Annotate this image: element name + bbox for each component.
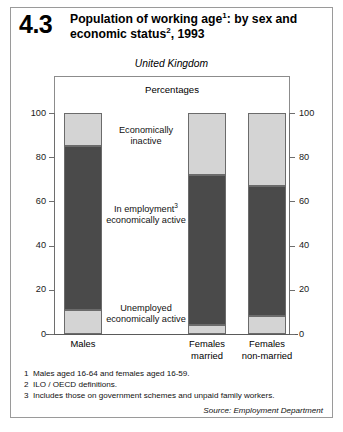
series-annotation: Economicallyinactive (104, 125, 188, 147)
series-annotation-line1: In employment3 (104, 204, 188, 215)
y-tick-label-left: 40 (36, 241, 46, 250)
bar-segment (188, 175, 226, 325)
series-annotation-line2: inactive (104, 136, 188, 147)
figure-header: 4.3 Population of working age1: by sex a… (12, 10, 330, 54)
y-tick-right (290, 113, 295, 114)
series-annotation-line1: Economically (104, 125, 188, 136)
figure-title-part1b: : by sex (227, 12, 272, 26)
y-tick-right (290, 290, 295, 291)
bar-segment (248, 113, 286, 186)
bar-segment (64, 310, 102, 334)
series-annotation-footnote-ref: 3 (174, 202, 178, 209)
y-tick-label-left: 100 (31, 109, 46, 118)
stacked-bar (188, 113, 226, 334)
footnote-text: ILO / OECD definitions. (33, 380, 117, 389)
category-label-line1: Females (225, 338, 309, 350)
y-tick-label-right: 80 (299, 153, 309, 162)
figure-title-part1: Population of working age (70, 12, 222, 26)
footnote-text: Includes those on government schemes and… (33, 391, 275, 400)
axis-baseline (46, 334, 298, 335)
y-tick-label-right: 20 (299, 285, 309, 294)
y-tick-label-left: 60 (36, 197, 46, 206)
units-label: Percentages (54, 84, 290, 95)
stacked-bar (64, 113, 102, 334)
category-label: Femalesnon-married (225, 338, 309, 361)
category-label: Males (41, 338, 125, 350)
y-tick-left (49, 290, 54, 291)
series-annotation-line2: economically active (104, 215, 188, 226)
bar-segment (64, 113, 102, 146)
y-tick-right (290, 334, 295, 335)
footnote-number: 3 (24, 390, 33, 401)
y-tick-label-left: 20 (36, 285, 46, 294)
bar-segment (64, 146, 102, 310)
figure-title-part2b: , 1993 (171, 27, 205, 41)
footnote: 1Males aged 16-64 and females aged 16-59… (24, 368, 324, 379)
series-annotation-line2: economically active (100, 314, 192, 325)
bar-segment (188, 113, 226, 175)
footnote-number: 2 (24, 379, 33, 390)
figure-number: 4.3 (19, 11, 52, 37)
category-label-line2: non-married (225, 350, 309, 362)
region-label: United Kingdom (0, 58, 343, 69)
footnote-text: Males aged 16-64 and females aged 16-59. (33, 369, 190, 378)
y-tick-label-right: 100 (299, 109, 314, 118)
y-tick-left (49, 246, 54, 247)
series-annotation: In employment3economically active (104, 204, 188, 226)
y-tick-left (49, 201, 54, 202)
y-tick-right (290, 157, 295, 158)
bar-segment (188, 325, 226, 334)
footnote: 2ILO / OECD definitions. (24, 379, 324, 390)
y-tick-label-right: 60 (299, 197, 309, 206)
y-tick-right (290, 246, 295, 247)
y-axis-left (54, 113, 55, 334)
series-annotation-line1: Unemployed (100, 303, 192, 314)
source-note: Source: Employment Department (203, 406, 323, 415)
y-tick-label-left: 80 (36, 153, 46, 162)
figure-title: Population of working age1: by sex and e… (70, 12, 328, 41)
figure-page: 4.3 Population of working age1: by sex a… (0, 0, 343, 432)
bar-segment (248, 316, 286, 334)
category-label-line1: Males (41, 338, 125, 350)
footnotes: 1Males aged 16-64 and females aged 16-59… (24, 368, 324, 402)
y-tick-left (49, 113, 54, 114)
footnote: 3Includes those on government schemes an… (24, 390, 324, 401)
y-tick-right (290, 201, 295, 202)
stacked-bar (248, 113, 286, 334)
bar-segment (248, 186, 286, 316)
y-tick-left (49, 334, 54, 335)
y-axis-right (289, 113, 290, 334)
y-tick-label-right: 40 (299, 241, 309, 250)
y-tick-left (49, 157, 54, 158)
footnote-number: 1 (24, 368, 33, 379)
series-annotation: Unemployedeconomically active (100, 303, 192, 325)
